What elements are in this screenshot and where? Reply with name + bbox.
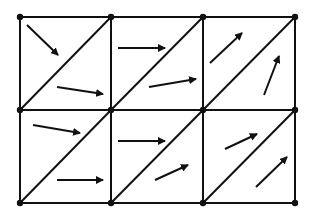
mesh-node xyxy=(292,107,298,113)
mesh-vector-diagram xyxy=(0,0,311,217)
vector-arrow-icon xyxy=(57,87,103,94)
cell-diagonal xyxy=(203,17,295,110)
mesh-node xyxy=(200,107,206,113)
mesh-node xyxy=(17,14,23,20)
vector-arrow-icon xyxy=(33,125,80,133)
cell-diagonal xyxy=(20,110,111,203)
vector-arrow-icon xyxy=(256,157,287,187)
mesh-node xyxy=(108,14,114,20)
vector-arrow-icon xyxy=(149,79,196,87)
mesh-node xyxy=(292,14,298,20)
vector-arrow-icon xyxy=(225,134,257,149)
cell-diagonal xyxy=(111,17,203,110)
cell-diagonal xyxy=(111,110,203,203)
vector-arrows xyxy=(27,25,287,187)
mesh-node xyxy=(108,107,114,113)
vector-arrow-icon xyxy=(264,56,279,95)
vector-arrow-icon xyxy=(210,33,242,63)
mesh-node xyxy=(108,200,114,206)
mesh-node xyxy=(200,200,206,206)
mesh-node xyxy=(200,14,206,20)
vector-arrow-icon xyxy=(155,165,188,180)
grid-lines xyxy=(20,17,295,203)
mesh-node xyxy=(17,200,23,206)
mesh-node xyxy=(17,107,23,113)
vector-arrow-icon xyxy=(27,25,58,55)
mesh-node xyxy=(292,200,298,206)
cell-diagonal xyxy=(203,110,295,203)
